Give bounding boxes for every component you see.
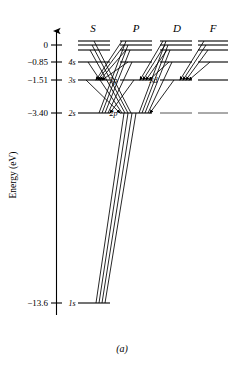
level-label-3p: 3p: [109, 76, 118, 85]
column-header-s: S: [90, 22, 96, 34]
axis-tick-label: −0.85: [27, 57, 48, 67]
level-label-2p: 2p: [110, 109, 118, 118]
y-axis-group: Energy (eV): [8, 31, 57, 315]
column-headers: SPDF: [90, 22, 216, 34]
transition-S5-to-P2: [90, 50, 125, 113]
level-label-3d: 3d: [149, 76, 159, 85]
axis-tick-label: −1.51: [27, 75, 48, 85]
transition-P3-to-S1: [99, 113, 128, 303]
transition-P4-to-S1: [102, 113, 132, 303]
level-label-4s: 4s: [68, 58, 75, 67]
column-header-f: F: [209, 22, 217, 34]
diagram-canvas: Energy (eV) 0−0.85−1.51−3.40−13.6 SPDF 4…: [0, 0, 235, 367]
y-axis-title: Energy (eV): [8, 151, 19, 198]
level-label-3s: 3s: [67, 76, 75, 85]
level-label-2s: 2s: [68, 109, 75, 118]
axis-tick-label: −13.6: [27, 298, 48, 308]
axis-tick-label: −3.40: [27, 108, 48, 118]
column-header-d: D: [172, 22, 181, 34]
axis-tick-label: 0: [44, 40, 49, 50]
level-label-1s: 1s: [68, 299, 75, 308]
column-header-p: P: [132, 22, 140, 34]
energy-level-diagram-figure: Energy (eV) 0−0.85−1.51−3.40−13.6 SPDF 4…: [0, 0, 235, 367]
energy-level-labels: 4s3s2s1s3p2p3d: [67, 58, 158, 308]
figure-caption: (a): [116, 343, 128, 355]
